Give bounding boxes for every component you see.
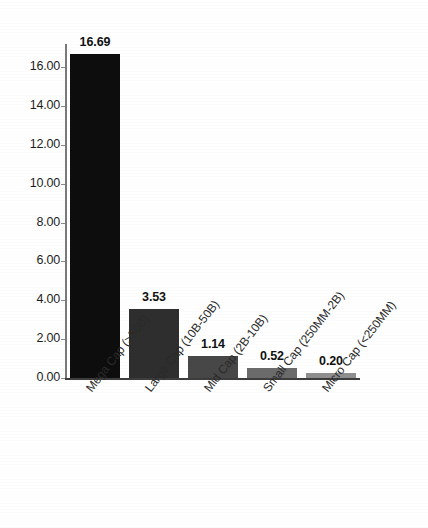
- bar[interactable]: [70, 54, 120, 378]
- bar-chart: 0.002.004.006.008.0010.0012.0014.0016.00…: [0, 0, 428, 528]
- bar-value-label: 16.69: [60, 35, 130, 49]
- bars-layer: 16.693.531.140.520.20: [0, 0, 428, 528]
- bar-value-label: 3.53: [119, 290, 189, 304]
